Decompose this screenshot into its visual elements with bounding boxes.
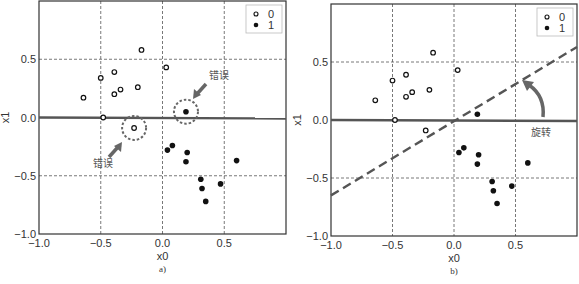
data-point-class-0 <box>98 76 103 81</box>
arrow-shaft <box>197 84 206 94</box>
data-point-class-0 <box>390 78 395 83</box>
legend-marker-1 <box>254 23 259 28</box>
data-point-class-1 <box>461 145 467 151</box>
data-point-class-0 <box>81 95 86 100</box>
data-point-class-1 <box>184 150 190 156</box>
y-tick-label: −1.0 <box>14 228 36 240</box>
data-point-class-1 <box>475 161 481 167</box>
data-point-class-1 <box>476 152 482 158</box>
data-point-class-1 <box>199 186 205 192</box>
data-point-class-1 <box>494 201 500 207</box>
data-point-class-0 <box>410 90 415 95</box>
x-tick-label: −0.5 <box>382 239 404 251</box>
data-point-class-0 <box>393 118 398 123</box>
y-tick-label: 0.5 <box>313 56 328 68</box>
y-axis-label: x1 <box>291 114 303 126</box>
y-tick-label: 0.5 <box>21 53 36 65</box>
arrow-shaft <box>109 147 118 157</box>
legend-box <box>246 5 282 33</box>
data-point-class-1 <box>218 181 224 187</box>
data-point-class-1 <box>165 147 171 153</box>
data-point-class-0 <box>455 68 460 73</box>
data-point-class-0 <box>136 85 141 90</box>
y-tick-label: 0.0 <box>21 112 36 124</box>
data-point-class-0 <box>139 48 144 53</box>
y-tick-label: 0.0 <box>313 114 328 126</box>
data-point-class-0 <box>118 87 123 92</box>
data-point-class-1 <box>491 188 497 194</box>
data-point-class-1 <box>489 179 495 185</box>
data-point-class-1 <box>183 109 189 115</box>
data-point-class-0 <box>431 50 436 55</box>
x-tick-label: 0.5 <box>508 239 523 251</box>
y-tick-label: −0.5 <box>306 172 328 184</box>
chart-canvas: −1.0−0.50.00.5−1.0−0.50.00.5x0x1a)01错误错误… <box>0 0 579 284</box>
panel-label: b) <box>450 266 458 276</box>
data-point-class-0 <box>404 72 409 77</box>
data-point-class-1 <box>509 183 515 189</box>
data-point-class-1 <box>475 111 481 117</box>
data-point-class-0 <box>112 70 117 75</box>
x-axis-label: x0 <box>157 250 169 262</box>
data-point-class-0 <box>423 128 428 133</box>
data-point-class-1 <box>234 158 240 164</box>
legend-marker-0 <box>254 12 258 16</box>
x-tick-label: 0.0 <box>446 239 461 251</box>
y-tick-label: −0.5 <box>14 170 36 182</box>
error-label: 错误 <box>93 157 113 169</box>
data-point-class-0 <box>112 92 117 97</box>
data-point-class-0 <box>101 115 106 120</box>
x-tick-label: −0.5 <box>90 237 112 249</box>
data-point-class-1 <box>198 176 204 182</box>
x-tick-label: 0.0 <box>155 237 170 249</box>
legend-box <box>537 8 573 36</box>
rotation-arrow-shaft <box>529 85 543 117</box>
data-point-class-0 <box>164 65 169 70</box>
legend-marker-0 <box>545 15 549 19</box>
error-label: 错误 <box>209 69 229 81</box>
data-point-class-1 <box>525 160 531 166</box>
legend-label-1: 1 <box>268 19 274 31</box>
data-point-class-1 <box>183 159 189 165</box>
x-axis-label: x0 <box>448 252 460 264</box>
x-tick-label: 0.5 <box>217 237 232 249</box>
rotate-label: 旋转 <box>531 126 551 138</box>
data-point-class-0 <box>427 88 432 93</box>
y-tick-label: −1.0 <box>306 230 328 242</box>
y-axis-label: x1 <box>0 112 11 124</box>
panel-a: −1.0−0.50.00.5−1.0−0.50.00.5x0x1a)01错误错误 <box>0 1 286 274</box>
panel-label: a) <box>159 264 166 274</box>
legend-marker-1 <box>545 26 550 31</box>
data-point-class-1 <box>170 143 176 149</box>
data-point-class-1 <box>456 150 462 156</box>
panel-b: −1.0−0.50.00.5−1.0−0.50.00.5x0x1b)01旋转 <box>291 4 577 276</box>
decision-boundary <box>39 118 286 119</box>
data-point-class-0 <box>132 126 137 131</box>
data-point-class-1 <box>203 199 209 205</box>
data-point-class-0 <box>373 98 378 103</box>
legend-label-1: 1 <box>559 22 565 34</box>
data-point-class-0 <box>404 95 409 100</box>
